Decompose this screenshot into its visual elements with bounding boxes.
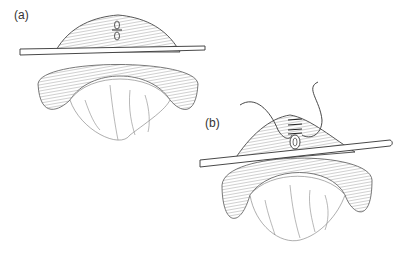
illustration bbox=[0, 0, 410, 255]
panel-b-drawing bbox=[200, 82, 392, 241]
panel-a-drawing bbox=[20, 15, 205, 140]
